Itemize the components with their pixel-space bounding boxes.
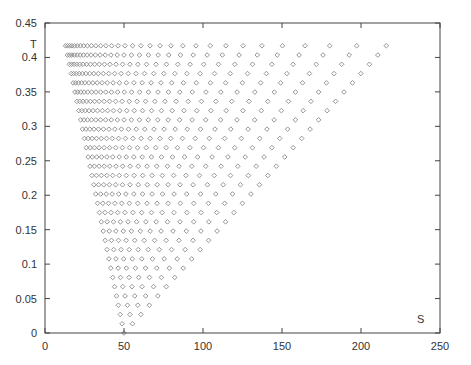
data-point — [128, 164, 133, 169]
data-point — [314, 62, 319, 67]
data-point — [171, 229, 176, 234]
data-point — [135, 201, 140, 206]
data-point — [129, 53, 134, 58]
data-point — [277, 136, 282, 141]
data-point — [99, 220, 104, 225]
data-point — [122, 118, 127, 123]
data-point — [114, 294, 119, 299]
data-point — [136, 62, 141, 67]
data-point — [98, 43, 103, 48]
data-point — [139, 136, 144, 141]
data-point — [198, 247, 203, 252]
data-point — [194, 81, 199, 86]
data-point — [169, 81, 174, 86]
data-point — [127, 99, 132, 104]
data-point — [116, 238, 121, 243]
data-point — [97, 145, 102, 150]
scatter-chart: 050100150200250 00.050.10.150.20.250.30.… — [0, 0, 471, 365]
data-point — [239, 136, 244, 141]
data-point — [223, 220, 228, 225]
data-point — [201, 145, 206, 150]
data-point — [115, 53, 120, 58]
data-point — [120, 321, 125, 326]
data-point — [183, 247, 188, 252]
data-point — [199, 99, 204, 104]
data-point — [324, 81, 329, 86]
plot-frame — [45, 23, 440, 333]
y-tick-label: 0.05 — [16, 293, 37, 305]
data-point — [144, 62, 149, 67]
data-point — [285, 71, 290, 76]
data-point — [127, 145, 132, 150]
data-point — [172, 275, 177, 280]
data-point — [254, 164, 259, 169]
data-point — [142, 238, 147, 243]
data-point — [178, 182, 183, 187]
data-point — [223, 81, 228, 86]
data-point — [159, 155, 164, 160]
data-point — [140, 257, 145, 262]
x-axis-label: S — [417, 313, 424, 325]
data-point — [99, 136, 104, 141]
data-point — [104, 173, 109, 178]
data-point — [108, 266, 113, 271]
data-point — [285, 127, 290, 132]
data-point — [149, 210, 154, 215]
data-point — [188, 62, 193, 67]
data-point — [177, 118, 182, 123]
data-point — [140, 284, 145, 289]
data-point — [258, 81, 263, 86]
data-point — [232, 210, 237, 215]
data-point — [129, 118, 134, 123]
data-point — [148, 43, 153, 48]
data-point — [98, 90, 103, 95]
data-point — [166, 53, 171, 58]
data-point — [156, 90, 161, 95]
data-point — [199, 229, 204, 234]
data-point — [166, 90, 171, 95]
data-point — [129, 90, 134, 95]
data-point — [142, 127, 147, 132]
data-point — [124, 192, 129, 197]
data-point — [109, 43, 114, 48]
data-point — [240, 201, 245, 206]
y-tick-label: 0.25 — [16, 155, 37, 167]
data-points — [63, 43, 388, 335]
data-point — [150, 173, 155, 178]
data-point — [103, 118, 108, 123]
data-point — [132, 155, 137, 160]
data-point — [125, 303, 130, 308]
data-point — [189, 257, 194, 262]
y-tick-label: 0 — [31, 327, 37, 339]
data-point — [367, 62, 372, 67]
data-point — [131, 136, 136, 141]
data-point — [102, 62, 107, 67]
data-point — [144, 220, 149, 225]
data-point — [118, 312, 123, 317]
data-point — [157, 247, 162, 252]
data-point — [182, 155, 187, 160]
data-point — [123, 210, 128, 215]
data-point — [280, 43, 285, 48]
data-point — [342, 90, 347, 95]
data-point — [77, 99, 82, 104]
data-point — [109, 53, 114, 58]
data-point — [104, 90, 109, 95]
data-point — [291, 62, 296, 67]
data-point — [164, 62, 169, 67]
data-point — [170, 155, 175, 160]
data-point — [116, 303, 121, 308]
data-point — [105, 155, 110, 160]
data-point — [102, 145, 107, 150]
x-tick-label: 0 — [42, 340, 48, 352]
data-point — [124, 238, 129, 243]
data-point — [154, 164, 159, 169]
data-point — [134, 127, 139, 132]
data-point — [147, 275, 152, 280]
data-point — [291, 145, 296, 150]
data-point — [143, 294, 148, 299]
data-point — [150, 257, 155, 262]
data-point — [190, 118, 195, 123]
data-point — [205, 182, 210, 187]
data-point — [111, 247, 116, 252]
